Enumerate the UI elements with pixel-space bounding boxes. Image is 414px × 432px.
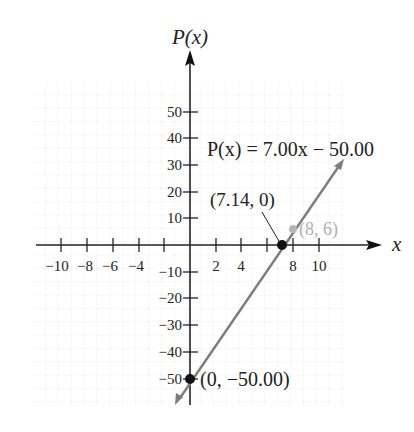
chart: −10 −8 −6 −4 2 4 8 10 50 40 30 20 10 −10… xyxy=(0,0,414,432)
y-tick-label: 30 xyxy=(167,157,182,173)
x-tick-label: 10 xyxy=(312,258,327,274)
x-axis-label: x xyxy=(391,232,402,256)
root-point-label: (7.14, 0) xyxy=(210,189,275,211)
y-tick-label: 20 xyxy=(167,184,182,200)
root-point xyxy=(277,240,287,250)
gray-point xyxy=(289,225,297,233)
y-axis-label: P(x) xyxy=(171,25,208,49)
x-tick-label: −8 xyxy=(77,258,93,274)
y-tick-label: 50 xyxy=(167,104,182,120)
y-tick-label: −20 xyxy=(159,290,182,306)
x-tick-label: 4 xyxy=(237,258,245,274)
x-tick-label: 8 xyxy=(289,258,297,274)
x-tick-label: 2 xyxy=(212,258,220,274)
intercept-point xyxy=(185,374,195,384)
x-tick-label: −6 xyxy=(102,258,118,274)
y-tick-label: −50 xyxy=(159,371,182,387)
x-tick-label: −10 xyxy=(45,258,68,274)
x-tick-label: −4 xyxy=(128,258,144,274)
y-tick-label: −40 xyxy=(159,344,182,360)
y-tick-label: 10 xyxy=(167,210,182,226)
y-tick-label: 40 xyxy=(167,130,182,146)
y-tick-label: −10 xyxy=(159,264,182,280)
intercept-point-label: (0, −50.00) xyxy=(200,368,290,391)
y-tick-label: −30 xyxy=(159,317,182,333)
equation-label: P(x) = 7.00x − 50.00 xyxy=(207,138,374,161)
grid xyxy=(33,82,345,405)
gray-point-label: (8, 6) xyxy=(299,219,338,240)
